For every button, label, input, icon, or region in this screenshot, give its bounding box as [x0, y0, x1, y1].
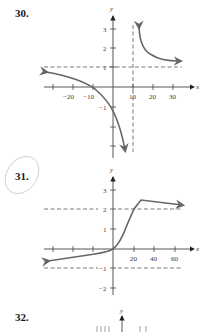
graphs-canvas: y x 3 2 1 −1 −20 −10 10 20 30: [0, 0, 216, 332]
right-branch-curve: [139, 27, 180, 61]
svg-text:20: 20: [149, 93, 157, 101]
svg-text:−1: −1: [99, 104, 107, 112]
svg-text:20: 20: [130, 255, 138, 263]
svg-text:40: 40: [150, 255, 158, 263]
graph-30: y x 3 2 1 −1 −20 −10 10 20 30: [44, 5, 200, 158]
svg-text:−2: −2: [99, 285, 107, 293]
svg-text:3: 3: [103, 187, 107, 195]
x-axis-label: x: [195, 83, 200, 91]
svg-text:3: 3: [103, 26, 107, 34]
y-axis-label: y: [109, 166, 114, 174]
svg-text:−20: −20: [63, 93, 74, 101]
svg-text:−1: −1: [99, 265, 107, 273]
svg-text:60: 60: [171, 255, 179, 263]
x-axis-label: x: [195, 245, 200, 253]
svg-text:1: 1: [103, 226, 107, 234]
graph-32: y: [97, 307, 146, 332]
svg-text:30: 30: [169, 93, 177, 101]
svg-text:2: 2: [103, 206, 107, 214]
svg-text:1: 1: [103, 64, 107, 72]
svg-text:2: 2: [103, 45, 107, 53]
svg-text:−10: −10: [83, 93, 94, 101]
graph-31: y x 3 2 1 −1 −2 20 40 60: [44, 166, 200, 295]
circle-annotation: [0, 150, 46, 200]
y-axis-label: y: [109, 5, 114, 13]
y-axis-label: y: [119, 307, 124, 315]
